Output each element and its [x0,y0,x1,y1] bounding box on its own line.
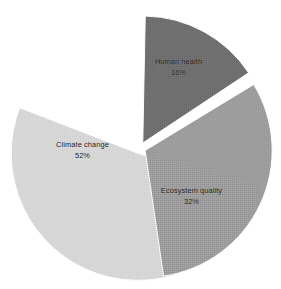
pie-chart-canvas [0,0,281,289]
pie-chart: Climate change 52% Ecosystem quality 32%… [0,0,281,289]
